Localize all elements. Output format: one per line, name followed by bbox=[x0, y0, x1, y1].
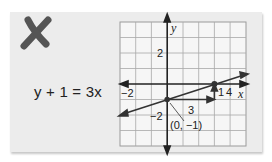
tick-label-x-neg2: −2 bbox=[121, 87, 134, 99]
x-axis-label: x bbox=[237, 87, 244, 101]
rise-label: 1 bbox=[218, 86, 224, 98]
extra-label: 4 bbox=[226, 86, 232, 98]
tick-label-y-neg2: −2 bbox=[150, 110, 163, 122]
coordinate-graph: y x 2 −2 −2 3 1 4 (0, −1) bbox=[0, 0, 272, 162]
tick-label-y-2: 2 bbox=[157, 47, 163, 59]
run-label: 3 bbox=[188, 104, 194, 116]
y-axis-label: y bbox=[170, 21, 177, 35]
point-label: (0, −1) bbox=[170, 119, 202, 131]
